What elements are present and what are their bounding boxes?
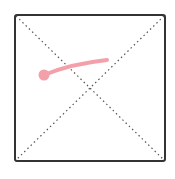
stroke-start-dot: [39, 70, 50, 81]
pink-freehand-stroke[interactable]: [44, 60, 107, 75]
canvas-overlay: [0, 0, 175, 179]
